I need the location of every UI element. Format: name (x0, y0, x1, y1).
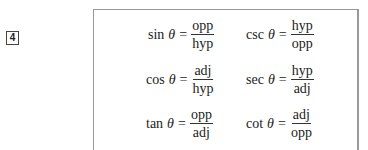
denominator: adj (293, 80, 312, 96)
fraction: adj hyp (191, 63, 214, 96)
function-name: sin (148, 27, 164, 43)
fraction: hyp adj (291, 63, 314, 96)
formula-box (93, 9, 359, 150)
equals-sign: = (279, 72, 287, 88)
function-name: csc (246, 27, 264, 43)
formula-tan: tan θ = opp adj (146, 107, 213, 140)
equals-sign: = (179, 27, 187, 43)
denominator: hyp (191, 35, 214, 51)
formula-sin: sin θ = opp hyp (148, 18, 214, 51)
equals-sign: = (178, 116, 186, 132)
formula-sec: sec θ = hyp adj (246, 63, 314, 96)
theta-symbol: θ (169, 72, 176, 88)
theta-symbol: θ (168, 27, 175, 43)
function-name: sec (246, 72, 264, 88)
denominator: adj (192, 124, 211, 140)
numerator: adj (292, 107, 311, 124)
denominator: opp (290, 124, 313, 140)
fraction: adj opp (290, 107, 313, 140)
theta-symbol: θ (267, 116, 274, 132)
theta-symbol: θ (167, 116, 174, 132)
denominator: hyp (191, 80, 214, 96)
numerator: hyp (291, 63, 314, 80)
function-name: cos (146, 72, 165, 88)
numerator: adj (193, 63, 212, 80)
fraction: opp hyp (191, 18, 214, 51)
numerator: opp (191, 18, 214, 35)
theta-symbol: θ (268, 27, 275, 43)
function-name: tan (146, 116, 163, 132)
equals-sign: = (278, 116, 286, 132)
numerator: opp (190, 107, 213, 124)
item-number-badge: 4 (6, 31, 19, 45)
theta-symbol: θ (268, 72, 275, 88)
fraction: hyp opp (291, 18, 314, 51)
formula-cot: cot θ = adj opp (246, 107, 313, 140)
formula-cos: cos θ = adj hyp (146, 63, 214, 96)
numerator: hyp (291, 18, 314, 35)
function-name: cot (246, 116, 263, 132)
equals-sign: = (180, 72, 188, 88)
formula-csc: csc θ = hyp opp (246, 18, 314, 51)
fraction: opp adj (190, 107, 213, 140)
denominator: opp (291, 35, 314, 51)
equals-sign: = (279, 27, 287, 43)
